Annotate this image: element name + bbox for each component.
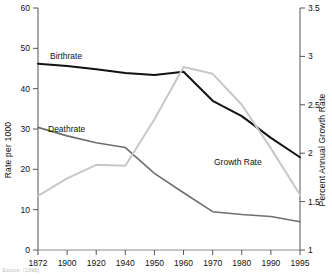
series-annotation-deathrate: Deathrate: [48, 124, 86, 134]
x-tick-label: 1960: [174, 258, 193, 268]
right-tick-label: 2: [308, 148, 313, 158]
left-tick-label: 10: [21, 205, 31, 215]
left-tick-label: 0: [25, 245, 30, 255]
y-axis-label: Rate per 1000: [3, 122, 13, 179]
left-tick-label: 40: [21, 84, 31, 94]
left-tick-label: 60: [21, 3, 31, 13]
chart-background: [0, 0, 332, 276]
x-tick-label: 1990: [261, 258, 280, 268]
x-tick-label: 1995: [291, 258, 310, 268]
left-tick-label: 20: [21, 164, 31, 174]
right-tick-label: 1: [308, 245, 313, 255]
y2-axis-label: Percent Annual Growth Rate: [317, 93, 327, 206]
x-tick-label: 1970: [203, 258, 222, 268]
source-note: Source: (1998): [2, 267, 122, 275]
dual-axis-line-chart: 0102030405060 11.522.533.5 1872190019201…: [0, 0, 332, 276]
right-tick-label: 3.5: [308, 3, 320, 13]
x-tick-label: 1950: [145, 258, 164, 268]
series-annotation-growth-rate: Growth Rate: [214, 157, 262, 167]
x-tick-label: 1980: [232, 258, 251, 268]
chart-figure: 0102030405060 11.522.533.5 1872190019201…: [0, 0, 332, 276]
left-tick-label: 50: [21, 43, 31, 53]
left-tick-label: 30: [21, 124, 31, 134]
series-annotation-birthrate: Birthrate: [50, 51, 82, 61]
right-tick-label: 3: [308, 51, 313, 61]
